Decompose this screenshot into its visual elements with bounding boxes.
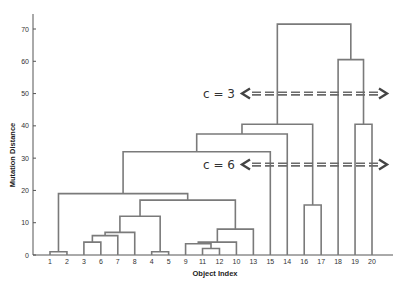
cut-label: c = 3: [203, 87, 235, 101]
x-tick-label: 17: [317, 258, 325, 265]
x-tick-label: 18: [334, 258, 342, 265]
x-tick-label: 14: [283, 258, 291, 265]
cut-line-c6: c = 6: [203, 158, 387, 172]
x-tick-label: 3: [82, 258, 86, 265]
y-tick-label: 50: [21, 90, 29, 97]
dendrogram-link: [203, 249, 220, 255]
x-tick-label: 6: [99, 258, 103, 265]
x-tick-label: 11: [199, 258, 206, 265]
x-tick-label: 12: [216, 258, 224, 265]
x-tick-label: 7: [116, 258, 120, 265]
arrow-right-icon: [379, 89, 387, 99]
y-tick-label: 40: [21, 122, 29, 129]
dendrogram-link: [92, 236, 117, 255]
dendrogram-link: [338, 60, 363, 255]
y-tick-label: 30: [21, 155, 29, 162]
x-tick-label: 10: [233, 258, 241, 265]
dendrogram-link: [355, 124, 372, 255]
dendrogram-link: [140, 200, 235, 229]
x-tick-label: 19: [351, 258, 359, 265]
arrow-left-icon: [242, 89, 250, 99]
dendrogram-link: [304, 205, 321, 255]
cut-line-c3: c = 3: [203, 87, 387, 101]
axes: 0102030405060701236784591112101315141617…: [21, 14, 393, 265]
arrow-left-icon: [242, 160, 250, 170]
x-tick-label: 8: [133, 258, 137, 265]
x-tick-label: 15: [266, 258, 274, 265]
y-tick-label: 0: [25, 252, 29, 259]
dendrogram-link: [186, 244, 211, 255]
x-tick-label: 5: [167, 258, 171, 265]
x-tick-label: 9: [184, 258, 188, 265]
x-axis-title: Object Index: [192, 269, 238, 278]
dendrogram-link: [242, 124, 313, 205]
y-tick-label: 20: [21, 187, 29, 194]
cut-label: c = 6: [203, 158, 235, 172]
dendrogram-link: [84, 242, 101, 255]
x-tick-label: 16: [300, 258, 308, 265]
x-tick-label: 20: [368, 258, 376, 265]
dendrogram-tree: [50, 24, 372, 255]
x-tick-label: 4: [150, 258, 154, 265]
arrow-right-icon: [379, 160, 387, 170]
x-tick-label: 2: [65, 258, 69, 265]
x-tick-label: 13: [249, 258, 257, 265]
y-tick-label: 10: [21, 219, 29, 226]
dendrogram-chart: 0102030405060701236784591112101315141617…: [0, 0, 403, 284]
y-tick-label: 60: [21, 58, 29, 65]
dendrogram-link: [58, 194, 187, 252]
y-axis-title: Mutation Distance: [8, 123, 17, 188]
x-tick-label: 1: [48, 258, 52, 265]
dendrogram-link: [120, 216, 160, 252]
dendrogram-link: [277, 24, 350, 124]
y-tick-label: 70: [21, 26, 29, 33]
cut-lines: c = 3c = 6: [203, 87, 387, 172]
